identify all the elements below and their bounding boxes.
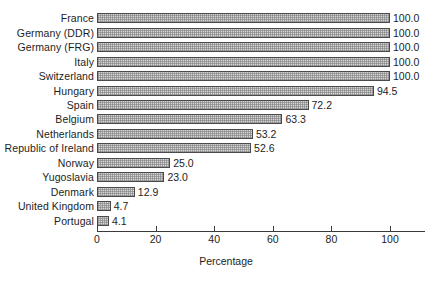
category-label: Republic of Ireland [5, 143, 97, 154]
bar [97, 100, 309, 110]
bar [97, 158, 170, 168]
category-label: Germany (DDR) [17, 27, 97, 38]
x-axis-title-text: Percentage [199, 255, 253, 267]
category-label: Portugal [54, 215, 97, 226]
x-axis-tick [273, 226, 274, 231]
x-axis-tick-label: 0 [94, 234, 100, 245]
bar-value-label: 100.0 [390, 13, 419, 24]
bar [97, 143, 251, 153]
bar-row: Hungary94.5 [0, 83, 440, 97]
bar-value-label: 100.0 [390, 56, 419, 67]
bar [97, 187, 135, 197]
bar-row: Italy100.0 [0, 54, 440, 68]
bar-row: Yugoslavia23.0 [0, 170, 440, 184]
x-axis-tick-label: 20 [150, 234, 162, 245]
x-axis-title: Percentage [0, 256, 440, 267]
category-label: France [61, 13, 97, 24]
bar-row: Germany (FRG)100.0 [0, 40, 440, 54]
category-label: Norway [58, 158, 97, 169]
x-axis-tick [214, 226, 215, 231]
bar [97, 13, 390, 23]
bar-value-label: 23.0 [164, 172, 187, 183]
x-axis-tick [390, 226, 391, 231]
category-label: Denmark [51, 187, 97, 198]
bar [97, 42, 390, 52]
bar [97, 129, 253, 139]
bar [97, 28, 390, 38]
x-axis-tick [97, 226, 98, 231]
bar-value-label: 12.9 [135, 187, 158, 198]
bar-row: United Kingdom4.7 [0, 199, 440, 213]
x-axis-tick [331, 226, 332, 231]
bar [97, 57, 390, 67]
bar [97, 172, 164, 182]
bar-value-label: 4.1 [109, 215, 127, 226]
bar-row: France100.0 [0, 11, 440, 25]
bar-value-label: 100.0 [390, 42, 419, 53]
bar-value-label: 94.5 [374, 85, 397, 96]
bar-row: Spain72.2 [0, 98, 440, 112]
bar-value-label: 100.0 [390, 71, 419, 82]
x-axis-tick-label: 80 [326, 234, 338, 245]
category-label: Spain [67, 100, 97, 111]
category-label: Switzerland [39, 71, 97, 82]
bar-row: Belgium63.3 [0, 112, 440, 126]
bar-chart: France100.0Germany (DDR)100.0Germany (FR… [0, 0, 440, 281]
x-axis-tick [156, 226, 157, 231]
bar-value-label: 4.7 [111, 201, 129, 212]
category-label: Belgium [55, 114, 97, 125]
bar-row: Netherlands53.2 [0, 127, 440, 141]
x-axis-line [97, 231, 425, 232]
category-label: Netherlands [36, 129, 97, 140]
category-label: Germany (FRG) [17, 42, 97, 53]
category-label: Italy [74, 56, 97, 67]
bar-value-label: 100.0 [390, 27, 419, 38]
bar-row: Germany (DDR)100.0 [0, 25, 440, 39]
bar [97, 114, 282, 124]
bar [97, 216, 109, 226]
x-axis-tick-label: 100 [381, 234, 399, 245]
bar-value-label: 52.6 [251, 143, 274, 154]
bar-row: Portugal4.1 [0, 214, 440, 228]
bar-value-label: 53.2 [253, 129, 276, 140]
bar-value-label: 63.3 [282, 114, 305, 125]
bar-row: Denmark12.9 [0, 185, 440, 199]
bar-row: Republic of Ireland52.6 [0, 141, 440, 155]
bar-value-label: 25.0 [170, 158, 193, 169]
bar-value-label: 72.2 [309, 100, 332, 111]
x-axis-tick-label: 40 [208, 234, 220, 245]
bar [97, 201, 111, 211]
bar-row: Switzerland100.0 [0, 69, 440, 83]
category-label: Hungary [54, 85, 97, 96]
bar [97, 71, 390, 81]
category-label: United Kingdom [18, 201, 97, 212]
bar [97, 86, 374, 96]
category-label: Yugoslavia [42, 172, 97, 183]
bar-row: Norway25.0 [0, 156, 440, 170]
x-axis-tick-label: 60 [267, 234, 279, 245]
